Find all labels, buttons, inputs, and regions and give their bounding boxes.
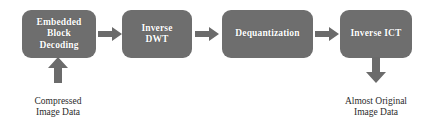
stage-label-inverse-ict: Inverse ICT — [348, 28, 405, 40]
stage-box-inverse-dwt[interactable]: Inverse DWT — [122, 10, 192, 58]
stage-label-inverse-dwt: Inverse DWT — [138, 23, 175, 46]
arrow-embedded-block-decoding-to-inverse-dwt — [98, 27, 122, 41]
arrow-output-from-inverse-ict — [366, 57, 386, 83]
arrow-dequantization-to-inverse-ict — [315, 27, 339, 41]
stage-box-embedded-block-decoding[interactable]: Embedded Block Decoding — [22, 10, 96, 58]
stage-box-dequantization[interactable]: Dequantization — [222, 10, 313, 58]
input-caption: Compressed Image Data — [8, 84, 108, 119]
stage-label-dequantization: Dequantization — [232, 28, 302, 40]
stage-box-inverse-ict[interactable]: Inverse ICT — [340, 10, 412, 58]
output-caption: Almost Original Image Data — [326, 84, 426, 119]
output-caption-label: Almost Original Image Data — [345, 96, 407, 118]
arrow-inverse-dwt-to-dequantization — [195, 27, 219, 41]
input-caption-label: Compressed Image Data — [35, 96, 82, 118]
diagram-canvas: Embedded Block Decoding Inverse DWT Dequ… — [0, 0, 427, 120]
arrow-input-to-embedded-block-decoding — [48, 57, 68, 83]
stage-label-embedded-block-decoding: Embedded Block Decoding — [33, 17, 84, 52]
